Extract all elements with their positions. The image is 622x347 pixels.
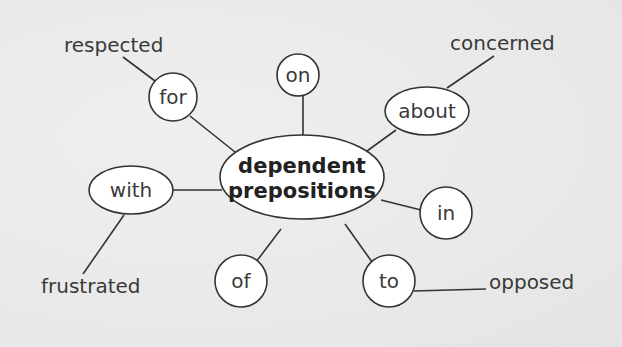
node-with: with [89, 166, 173, 214]
link-center-in [381, 200, 421, 210]
node-for: for [149, 73, 197, 121]
link-center-of [256, 229, 281, 262]
node-of: of [215, 255, 267, 307]
link-center-for [190, 116, 240, 156]
node-label-of: of [231, 269, 251, 293]
link-for-respected [123, 57, 155, 81]
link-to-opposed [414, 289, 486, 291]
node-label-about: about [398, 99, 456, 123]
node-label-for: for [159, 85, 187, 109]
node-in: in [420, 187, 472, 239]
adjective-respected: respected [64, 33, 163, 57]
link-center-about [367, 130, 396, 151]
node-on: on [277, 54, 319, 96]
node-label-to: to [379, 269, 399, 293]
mind-map-canvas: dependent prepositions on for about with… [0, 0, 622, 347]
link-with-frustrated [83, 215, 124, 274]
link-center-to [345, 224, 372, 262]
center-label-line1: dependent [238, 154, 366, 178]
mind-map-diagram: dependent prepositions on for about with… [0, 0, 622, 347]
center-label-line2: prepositions [228, 179, 376, 203]
node-label-on: on [286, 63, 311, 87]
link-about-concerned [447, 56, 494, 88]
node-to: to [363, 255, 415, 307]
adjective-opposed: opposed [489, 270, 574, 294]
adjective-concerned: concerned [450, 31, 555, 55]
center-node: dependent prepositions [220, 135, 384, 219]
node-label-with: with [110, 178, 152, 202]
node-label-in: in [437, 201, 455, 225]
adjective-frustrated: frustrated [41, 274, 141, 298]
node-about: about [385, 87, 469, 135]
